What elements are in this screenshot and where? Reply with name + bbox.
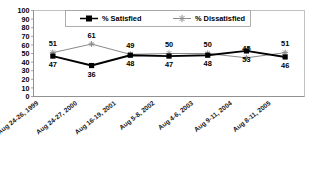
legend-marker-star-icon [178, 15, 186, 22]
legend-label-satisfied: % Satisfied [102, 14, 142, 23]
data-label-satisfied: 47 [165, 60, 173, 69]
data-label-dissatisfied: 49 [126, 41, 134, 50]
data-label-satisfied: 48 [126, 59, 134, 68]
x-axis-category-labels: Aug 24-26, 1999Aug 24-27, 2000Aug 16-19,… [0, 99, 273, 136]
marker-square-icon [50, 53, 55, 58]
chart-legend: % Satisfied % Dissatisfied [66, 11, 251, 27]
marker-square-icon [166, 53, 171, 58]
marker-square-icon [283, 54, 288, 59]
data-label-dissatisfied: 45 [242, 44, 250, 53]
y-axis-tick-labels: 1009080706050403020100 [18, 6, 30, 101]
data-labels-dissatisfied: 51614950504551 [49, 31, 290, 54]
data-label-dissatisfied: 50 [204, 40, 212, 49]
data-label-satisfied: 36 [87, 70, 95, 79]
marker-square-icon [128, 53, 133, 58]
data-label-dissatisfied: 50 [165, 40, 173, 49]
marker-square-icon [205, 53, 210, 58]
line-chart: 1009080706050403020100 51614950504551 47… [0, 0, 313, 169]
legend-marker-square-icon [86, 16, 92, 22]
x-category-label: Aug 16-19, 2001 [73, 99, 117, 136]
data-label-satisfied: 47 [49, 60, 57, 69]
x-category-label: Aug 24-27, 2000 [35, 99, 79, 136]
x-category-label: Aug 8-11, 2005 [231, 99, 272, 134]
legend-label-dissatisfied: % Dissatisfied [195, 14, 246, 23]
data-label-satisfied: 46 [281, 61, 289, 70]
marker-star-icon [89, 41, 95, 47]
data-label-dissatisfied: 61 [87, 31, 95, 40]
data-label-dissatisfied: 51 [281, 39, 289, 48]
x-category-label: Aug 5-8, 2002 [118, 99, 157, 132]
x-category-label: Aug 4-6, 2003 [157, 99, 196, 132]
data-label-dissatisfied: 51 [49, 39, 57, 48]
chart-container: 1009080706050403020100 51614950504551 47… [0, 0, 313, 169]
marker-square-icon [89, 63, 94, 68]
data-label-satisfied: 53 [242, 55, 250, 64]
y-tick-label: 0 [26, 92, 30, 101]
x-category-label: Aug 9-11, 2004 [193, 99, 234, 134]
data-label-satisfied: 48 [204, 59, 212, 68]
